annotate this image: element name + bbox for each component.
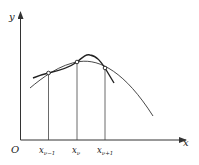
- x-axis-label: x: [183, 137, 189, 148]
- diagram-canvas: y x O xν−1 xν xν+1: [0, 0, 199, 165]
- origin-label: O: [11, 144, 19, 155]
- tick-label-v-plus-1: xν+1: [97, 145, 113, 156]
- y-axis-label: y: [8, 11, 15, 22]
- tick-label-v-minus-1: xν−1: [39, 145, 55, 156]
- interpolating-curve: [33, 55, 114, 83]
- node-point-v: [75, 60, 79, 64]
- node-point-v-minus-1: [47, 71, 51, 75]
- interpolation-diagram: y x O xν−1 xν xν+1: [0, 0, 199, 165]
- node-point-v-plus-1: [103, 66, 107, 70]
- tick-label-v: xν: [72, 145, 81, 156]
